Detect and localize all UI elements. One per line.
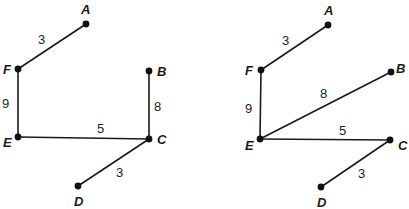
node-label-a: A [323, 3, 333, 18]
edge-c-d [321, 140, 390, 187]
node-label-f: F [245, 63, 254, 78]
edge-f-e [260, 70, 261, 139]
node-label-b: B [396, 61, 405, 76]
node-b [146, 68, 153, 75]
node-e [257, 136, 264, 143]
edge-weight-label: 3 [282, 33, 289, 48]
node-d [75, 183, 82, 190]
node-f [15, 66, 22, 73]
diagram-canvas: 39853AFBECD 39853AFBECD [0, 0, 409, 209]
edge-weight-label: 3 [358, 166, 365, 181]
edge-weight-label: 8 [320, 86, 327, 101]
edge-e-c [18, 137, 149, 139]
node-e [15, 134, 22, 141]
right-graph: 39853AFBECD [245, 3, 408, 209]
node-b [388, 69, 395, 76]
node-c [146, 136, 153, 143]
edge-f-a [18, 24, 86, 69]
node-a [325, 22, 332, 29]
edge-e-b [260, 72, 391, 139]
edge-c-d [78, 139, 149, 186]
node-label-d: D [74, 194, 84, 209]
node-label-c: C [398, 138, 408, 153]
edge-weight-label: 5 [339, 123, 346, 138]
edge-e-c [260, 139, 390, 140]
node-label-f: F [3, 62, 12, 77]
node-label-e: E [245, 138, 254, 153]
edge-weight-label: 3 [116, 165, 123, 180]
node-c [387, 137, 394, 144]
node-label-e: E [3, 135, 12, 150]
node-f [258, 67, 265, 74]
edge-f-a [261, 25, 328, 70]
node-label-d: D [317, 195, 327, 209]
node-label-c: C [157, 132, 167, 147]
edge-weight-label: 9 [2, 96, 9, 111]
left-graph: 39853AFBECD [2, 2, 167, 209]
node-label-b: B [157, 64, 166, 79]
edge-weight-label: 5 [97, 121, 104, 136]
node-a [83, 21, 90, 28]
edge-weight-label: 8 [154, 99, 161, 114]
edge-weight-label: 9 [245, 101, 252, 116]
node-label-a: A [80, 2, 90, 17]
node-d [318, 184, 325, 191]
edge-weight-label: 3 [38, 32, 45, 47]
